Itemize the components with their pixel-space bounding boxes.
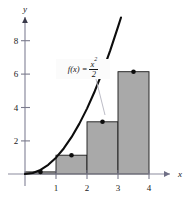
y-tick-label: 6 (14, 69, 19, 79)
y-tick-label: 2 (14, 136, 19, 146)
midpoint-rule-figure: 2 4 6 8 1 2 3 4 y x (0, 0, 191, 204)
x-tick-label: 2 (85, 183, 90, 193)
fraction: x2 2 (89, 60, 98, 79)
x-tick-label: 1 (54, 183, 59, 193)
sample-point (38, 170, 43, 175)
fraction-numerator: x2 (89, 60, 98, 69)
rectangle-bar (56, 155, 87, 174)
sample-point (131, 69, 136, 74)
annotation-leader-line (96, 79, 105, 115)
rectangle-bar (87, 122, 118, 174)
y-axis-label: y (22, 4, 27, 14)
y-tick-label: 4 (14, 103, 19, 113)
fraction-denominator: 2 (91, 70, 97, 79)
function-annotation-text: f(x) = x2 2 (68, 60, 98, 79)
x-tick-label: 3 (116, 183, 121, 193)
x-tick-label: 4 (147, 183, 152, 193)
sample-point (69, 153, 74, 158)
function-annotation: f(x) = x2 2 (56, 59, 110, 79)
rectangle-bar (118, 72, 149, 174)
function-notation: f(x) = (68, 65, 88, 74)
y-tick-label: 8 (14, 36, 19, 46)
midpoint-rectangles (25, 72, 149, 174)
x-axis-label: x (177, 169, 182, 179)
sample-point (100, 120, 105, 125)
